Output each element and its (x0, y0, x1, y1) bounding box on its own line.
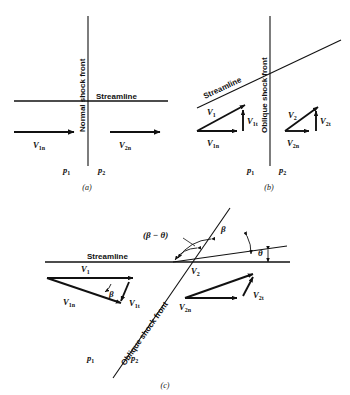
v1t-label-c: V1t (129, 298, 140, 309)
normal-shock-front-label: Normal shock front (78, 58, 87, 132)
v1-label-c: V1 (81, 264, 90, 275)
panel-b: Oblique shock front Streamline V1 V1t V1… (175, 0, 350, 200)
beta-label: β (220, 224, 226, 234)
v1n-label: V1n (33, 140, 46, 151)
v1t-label-b: V1t (247, 116, 258, 127)
deflected-streamline-c (173, 246, 287, 262)
p2-label-a: p2 (97, 165, 105, 176)
v1n-label-b: V1n (207, 138, 220, 149)
v2-label-b: V2 (288, 110, 297, 121)
p1-label-b: p1 (246, 165, 254, 176)
oblique-shock-front-label-c: Oblique shock front (119, 300, 170, 367)
v2t-label-c: V2t (253, 290, 264, 301)
v1t-vector-c (121, 282, 129, 301)
caption-c: (c) (161, 381, 170, 390)
v1-label-b: V1 (207, 107, 216, 118)
velocity-triangle-2-c (185, 274, 253, 298)
p2-sub: 2 (102, 170, 105, 176)
panel-a: Normal shock front Streamline V1n V2n p1… (0, 0, 175, 200)
streamline-label-c: Streamline (87, 252, 128, 261)
p2-label-b: p2 (278, 165, 286, 176)
beta-minus-theta-leader (183, 238, 195, 246)
theta-label: θ (258, 248, 263, 258)
velocity-triangle-1-c (47, 278, 133, 303)
v2t-vector-c (243, 277, 253, 296)
p1-sub: 1 (67, 170, 70, 176)
p2-label-c: p2 (130, 353, 138, 364)
streamline-label-a: Streamline (96, 92, 137, 101)
streamline-label-b: Streamline (202, 75, 243, 101)
caption-a: (a) (82, 183, 92, 192)
v2n-label-c: V2n (179, 302, 192, 313)
p1-label-c: p1 (86, 353, 94, 364)
panel-c: Streamline Oblique shock front (β − θ) β… (25, 198, 325, 395)
p1-label-a: p1 (62, 165, 70, 176)
beta-inner-label-c: β (108, 289, 114, 299)
v2n-label: V2n (119, 140, 132, 151)
beta-minus-theta-label: (β − θ) (143, 230, 168, 240)
velocity-triangle-1-b (197, 105, 245, 131)
v2n-label-b: V2n (287, 138, 300, 149)
caption-b: (b) (264, 183, 274, 192)
v2t-label-b: V2t (320, 116, 331, 127)
v2n-sub: 2n (125, 145, 132, 151)
streamline-b (197, 40, 341, 108)
v1n-sub: 1n (39, 145, 46, 151)
v1n-label-c: V1n (63, 297, 76, 308)
v2-label-c: V2 (191, 266, 200, 277)
v1-vector-b (197, 105, 245, 131)
oblique-shock-front-label-b: Oblique shock front (260, 57, 269, 133)
